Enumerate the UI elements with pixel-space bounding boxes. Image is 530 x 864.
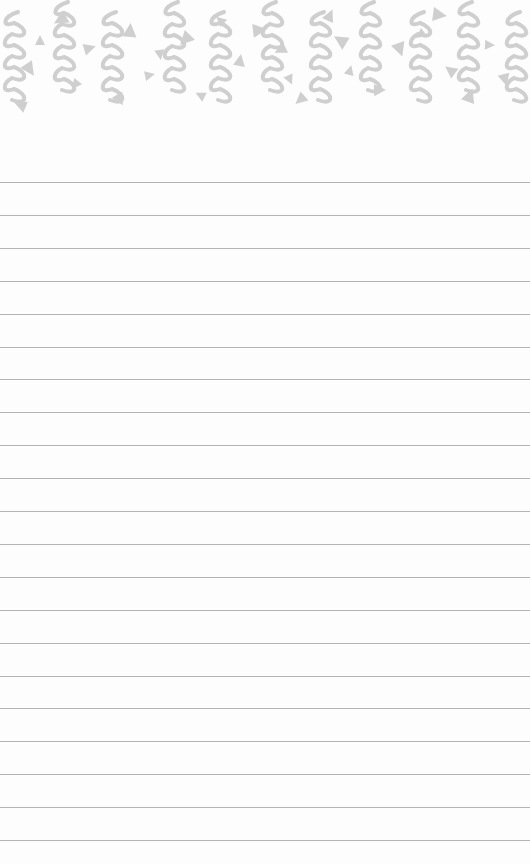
ruled-line bbox=[0, 281, 530, 282]
ruled-line bbox=[0, 774, 530, 775]
ruled-lines-area[interactable] bbox=[0, 0, 530, 864]
ruled-line bbox=[0, 840, 530, 841]
ruled-line bbox=[0, 741, 530, 742]
ruled-line bbox=[0, 478, 530, 479]
ruled-line bbox=[0, 708, 530, 709]
ruled-line bbox=[0, 215, 530, 216]
ruled-line bbox=[0, 182, 530, 183]
ruled-line bbox=[0, 511, 530, 512]
ruled-line bbox=[0, 807, 530, 808]
ruled-line bbox=[0, 412, 530, 413]
ruled-line bbox=[0, 643, 530, 644]
ruled-line bbox=[0, 577, 530, 578]
ruled-line bbox=[0, 445, 530, 446]
ruled-line bbox=[0, 676, 530, 677]
ruled-line bbox=[0, 544, 530, 545]
ruled-line bbox=[0, 379, 530, 380]
ruled-line bbox=[0, 248, 530, 249]
ruled-line bbox=[0, 610, 530, 611]
ruled-line bbox=[0, 347, 530, 348]
ruled-line bbox=[0, 314, 530, 315]
